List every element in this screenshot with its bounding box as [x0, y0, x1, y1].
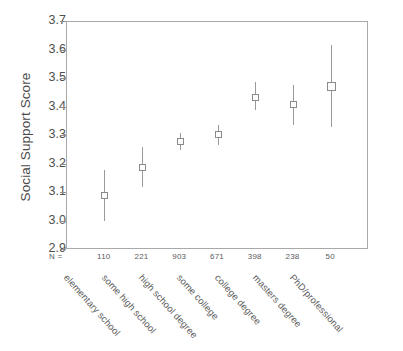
y-tick-mark — [60, 249, 66, 250]
y-tick-label: 3.4 — [10, 99, 66, 113]
plot-area — [66, 21, 368, 249]
y-tick: 3.3 — [0, 135, 66, 136]
mean-marker[interactable] — [177, 138, 184, 145]
sample-size-value: 221 — [135, 252, 149, 261]
sample-size-value: 50 — [326, 252, 335, 261]
y-tick: 3.7 — [0, 21, 66, 22]
y-tick: 3.5 — [0, 78, 66, 79]
y-tick-label: 3.0 — [10, 213, 66, 227]
sample-size-value: 110 — [97, 252, 110, 261]
y-tick: 3.2 — [0, 164, 66, 165]
sample-size-label: N = — [49, 252, 63, 261]
mean-marker[interactable] — [252, 94, 259, 101]
mean-marker[interactable] — [101, 192, 108, 199]
y-tick-label: 3.1 — [10, 184, 66, 198]
y-tick: 3.4 — [0, 107, 66, 108]
y-tick-label: 3.2 — [10, 156, 66, 170]
sample-size-value: 903 — [172, 252, 186, 261]
mean-marker[interactable] — [215, 131, 222, 138]
mean-marker[interactable] — [139, 164, 146, 171]
y-tick: 2.9 — [0, 249, 66, 250]
y-tick-label: 3.5 — [10, 70, 66, 84]
mean-marker[interactable] — [290, 101, 297, 108]
sample-size-value: 398 — [248, 252, 262, 261]
mean-marker[interactable] — [327, 82, 336, 91]
y-tick-label: 3.6 — [10, 42, 66, 56]
y-tick: 3.1 — [0, 192, 66, 193]
sample-size-value: 238 — [286, 252, 300, 261]
chart-root: Social Support Score 3.73.63.53.43.33.23… — [0, 0, 403, 351]
sample-size-row: N = 11022190367139823850 — [0, 252, 403, 266]
y-tick-label: 3.7 — [10, 13, 66, 27]
y-tick: 3.6 — [0, 50, 66, 51]
y-tick-label: 3.3 — [10, 127, 66, 141]
sample-size-value: 671 — [210, 252, 224, 261]
y-tick: 3.0 — [0, 221, 66, 222]
